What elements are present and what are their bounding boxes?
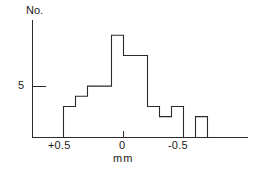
histogram-step-outline <box>64 35 184 137</box>
x-tick-label-minus-half: -0.5 <box>168 140 188 151</box>
histogram-outlier-bar <box>196 117 208 137</box>
axes-group <box>33 20 249 138</box>
x-axis-unit-label: mm <box>113 153 134 164</box>
y-tick-label-5: 5 <box>18 80 24 91</box>
histogram-figure: No. 5 +0.5 0 -0.5 mm <box>0 0 254 172</box>
x-tick-label-zero: 0 <box>119 140 125 151</box>
y-axis-title: No. <box>26 5 43 16</box>
tick-marks-group <box>33 87 184 138</box>
histogram-bars-group <box>64 35 208 137</box>
histogram-plot <box>0 0 254 172</box>
x-tick-label-plus-half: +0.5 <box>48 140 71 151</box>
